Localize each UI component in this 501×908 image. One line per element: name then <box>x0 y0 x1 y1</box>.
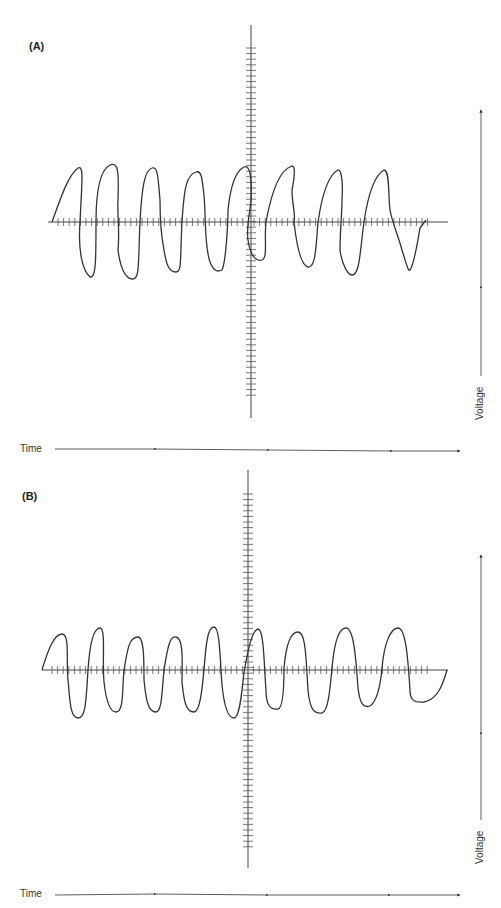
panel-b-label: (B) <box>22 490 37 502</box>
panel-a-time-arrow <box>55 449 460 451</box>
panel-b-time-arrow <box>55 894 460 895</box>
panel-b-time-label: Time <box>20 888 42 899</box>
panel-a-voltage-label: Voltage <box>474 387 485 420</box>
panel-b-voltage-label: Voltage <box>474 831 485 864</box>
panel-b-plot <box>42 470 448 868</box>
panel-a-plot <box>48 25 448 418</box>
panel-a-label: (A) <box>29 40 44 52</box>
figure-canvas <box>0 0 501 908</box>
panel-a-time-label: Time <box>20 443 42 454</box>
